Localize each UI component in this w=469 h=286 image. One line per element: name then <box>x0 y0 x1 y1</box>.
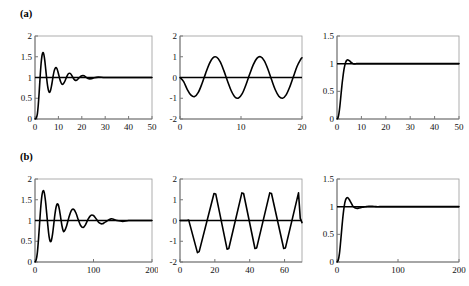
ytick-label: 0.5 <box>323 229 335 239</box>
data-curve <box>337 60 459 119</box>
data-curve <box>180 193 302 253</box>
plot-panel-b2: -2-10120204060 <box>158 170 310 282</box>
xtick-label: 0 <box>335 122 340 132</box>
ytick-label: 2 <box>28 174 33 184</box>
ytick-label: 1 <box>28 216 33 226</box>
row-label-a: (a) <box>20 8 32 19</box>
xtick-label: 10 <box>357 122 367 132</box>
xtick-label: 0 <box>178 265 183 275</box>
ytick-label: 1.5 <box>323 174 335 184</box>
xtick-label: 40 <box>124 122 134 132</box>
ytick-label: 1 <box>173 52 178 62</box>
ytick-label: 2 <box>173 31 178 41</box>
xtick-label: 20 <box>381 122 391 132</box>
figure-row-b: (b) 00.511.520100200 -2-10120204060 00.5… <box>0 143 469 286</box>
data-curve <box>35 191 152 262</box>
ytick-label: -2 <box>170 257 178 267</box>
ytick-label: 0 <box>173 216 178 226</box>
ytick-label: 1 <box>173 195 178 205</box>
plot-panel-a2: -2-101201020 <box>158 27 310 139</box>
ytick-label: 0 <box>330 114 335 124</box>
xtick-label: 10 <box>54 122 64 132</box>
plot-panel-b3: 00.511.50100200 <box>310 170 469 282</box>
plot-svg-b2: -2-10120204060 <box>158 170 310 282</box>
xtick-label: 40 <box>245 265 255 275</box>
plot-svg-a2: -2-101201020 <box>158 27 310 139</box>
ytick-label: 1 <box>28 73 33 83</box>
figure-container: (a) 00.511.5201020304050 -2-101201020 00… <box>0 0 469 286</box>
xtick-label: 60 <box>280 265 290 275</box>
xtick-label: 40 <box>430 122 440 132</box>
xtick-label: 100 <box>391 265 405 275</box>
ytick-label: 1.5 <box>21 52 33 62</box>
ytick-label: 1.5 <box>21 195 33 205</box>
xtick-label: 0 <box>335 265 340 275</box>
xtick-label: 20 <box>210 265 220 275</box>
xtick-label: 0 <box>33 122 38 132</box>
plot-svg-a1: 00.511.5201020304050 <box>10 27 158 139</box>
ytick-label: 1 <box>330 59 335 69</box>
ytick-label: 0 <box>28 114 33 124</box>
xtick-label: 200 <box>452 265 466 275</box>
xtick-label: 50 <box>455 122 465 132</box>
ytick-label: 1 <box>330 202 335 212</box>
ytick-label: -1 <box>170 93 178 103</box>
xtick-label: 30 <box>406 122 416 132</box>
ytick-label: 0.5 <box>323 86 335 96</box>
ytick-label: 0 <box>28 257 33 267</box>
plot-panel-a1: 00.511.5201020304050 <box>10 27 158 139</box>
ytick-label: 0 <box>173 73 178 83</box>
data-curve <box>337 198 459 262</box>
xtick-label: 0 <box>33 265 38 275</box>
plot-panel-a3: 00.511.501020304050 <box>310 27 469 139</box>
xtick-label: 20 <box>77 122 87 132</box>
xtick-label: 200 <box>145 265 158 275</box>
xtick-label: 10 <box>237 122 247 132</box>
ytick-label: -2 <box>170 114 178 124</box>
xtick-label: 20 <box>298 122 308 132</box>
ytick-label: 2 <box>28 31 33 41</box>
ytick-label: 0 <box>330 257 335 267</box>
ytick-label: -1 <box>170 236 178 246</box>
ytick-label: 2 <box>173 174 178 184</box>
xtick-label: 0 <box>178 122 183 132</box>
ytick-label: 1.5 <box>323 31 335 41</box>
xtick-label: 50 <box>148 122 158 132</box>
plot-panel-b1: 00.511.520100200 <box>10 170 158 282</box>
plot-svg-b3: 00.511.50100200 <box>310 170 469 282</box>
ytick-label: 0.5 <box>21 93 33 103</box>
xtick-label: 30 <box>101 122 111 132</box>
ytick-label: 0.5 <box>21 236 33 246</box>
plot-svg-a3: 00.511.501020304050 <box>310 27 469 139</box>
figure-row-a: (a) 00.511.5201020304050 -2-101201020 00… <box>0 0 469 143</box>
row-label-b: (b) <box>20 151 33 162</box>
plot-svg-b1: 00.511.520100200 <box>10 170 158 282</box>
data-curve <box>35 53 152 119</box>
xtick-label: 100 <box>87 265 101 275</box>
